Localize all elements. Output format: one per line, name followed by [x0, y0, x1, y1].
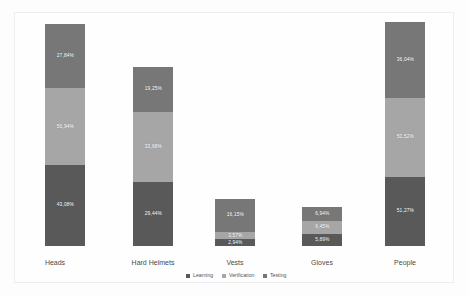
legend-item-learning[interactable]: Learning [186, 273, 209, 278]
bar-segment-testing[interactable]: 27,84% [45, 24, 85, 88]
segment-value-label: 2,94% [228, 240, 242, 245]
segment-value-label: 3,57% [228, 233, 242, 238]
chart-screenshot: 27,84% 50,94% 43,08% Heads 19,25% 33,68% [0, 0, 468, 295]
segment-value-label: 6,45% [315, 225, 329, 230]
legend-swatch-icon [186, 274, 190, 278]
segment-value-label: 51,27% [396, 209, 413, 214]
bar-segment-testing[interactable]: 19,25% [133, 67, 173, 112]
segment-value-label: 16,15% [226, 213, 243, 218]
segment-value-label: 36,04% [396, 57, 413, 62]
bar-group-gloves[interactable]: 6,94% 6,45% 5,89% [302, 207, 342, 246]
bar-segment-learning[interactable]: 51,27% [385, 177, 425, 246]
legend-item-verification[interactable]: Verification [222, 273, 249, 278]
chart-legend: Learning Verification Testing [15, 273, 453, 278]
segment-value-label: 19,25% [144, 87, 161, 92]
legend-label: Verification [229, 272, 254, 279]
x-axis-label-people: People [360, 259, 450, 266]
legend-swatch-icon [263, 274, 267, 278]
bar-segment-verification[interactable]: 50,94% [45, 88, 85, 165]
bar-segment-testing[interactable]: 36,04% [385, 22, 425, 98]
bar-segment-learning[interactable]: 29,44% [133, 182, 173, 246]
bar-group-heads[interactable]: 27,84% 50,94% 43,08% [45, 24, 85, 246]
bar-segment-verification[interactable]: 6,45% [302, 221, 342, 234]
chart-card: 27,84% 50,94% 43,08% Heads 19,25% 33,68% [14, 12, 454, 283]
segment-value-label: 5,89% [315, 237, 329, 242]
bar-segment-learning[interactable]: 2,94% [215, 239, 255, 246]
bar-segment-testing[interactable]: 6,94% [302, 207, 342, 221]
bar-segment-testing[interactable]: 16,15% [215, 199, 255, 232]
bar-segment-verification[interactable]: 3,57% [215, 232, 255, 240]
segment-value-label: 29,44% [144, 211, 161, 216]
legend-swatch-icon [222, 274, 226, 278]
legend-item-testing[interactable]: Testing [263, 273, 283, 278]
x-axis-label-hard-helmets: Hard Helmets [108, 259, 198, 266]
segment-value-label: 50,94% [56, 124, 73, 129]
x-axis-label-heads: Heads [10, 259, 100, 266]
bar-segment-verification[interactable]: 33,68% [133, 112, 173, 182]
segment-value-label: 27,84% [56, 54, 73, 59]
segment-value-label: 6,94% [315, 211, 329, 216]
segment-value-label: 33,68% [144, 144, 161, 149]
legend-label: Testing [270, 272, 286, 279]
bar-segment-verification[interactable]: 50,52% [385, 98, 425, 176]
bar-group-hard-helmets[interactable]: 19,25% 33,68% 29,44% [133, 67, 173, 246]
bar-group-vests[interactable]: 16,15% 3,57% 2,94% [215, 199, 255, 246]
bar-group-people[interactable]: 36,04% 50,52% 51,27% [385, 22, 425, 246]
segment-value-label: 43,08% [56, 203, 73, 208]
segment-value-label: 50,52% [396, 135, 413, 140]
plot-area: 27,84% 50,94% 43,08% Heads 19,25% 33,68% [15, 13, 453, 282]
x-axis-label-gloves: Gloves [277, 259, 367, 266]
legend-label: Learning [193, 272, 213, 279]
x-axis-label-vests: Vests [190, 259, 280, 266]
bar-segment-learning[interactable]: 43,08% [45, 165, 85, 246]
bar-segment-learning[interactable]: 5,89% [302, 234, 342, 246]
